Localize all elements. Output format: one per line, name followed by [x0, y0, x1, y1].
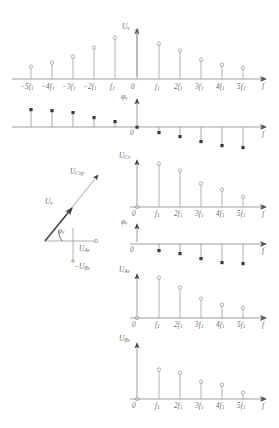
- chart-uv-ylabel-sub: v: [127, 25, 129, 31]
- chart-phiv-xlabel: f: [262, 130, 264, 138]
- chart-ucv-ylabel-sub: Cv: [124, 154, 130, 160]
- phasor-x-component-sub: Av: [84, 247, 89, 253]
- chart-phiv1-xlabel: f: [262, 247, 264, 255]
- chart-ubv: [130, 343, 266, 401]
- phasor-y-component-label: −UBv: [74, 263, 90, 272]
- tick-c6-f1: f1: [155, 403, 160, 410]
- phasor-diagram: [45, 175, 98, 262]
- tick-zero-c5: 0: [132, 322, 136, 329]
- tick-c3-3f1: 3f1: [195, 211, 204, 218]
- tick-c3-2f1: 2f1: [174, 211, 183, 218]
- tick-neg-4f1: −4f1: [41, 84, 55, 91]
- tick-2f1: 2f1: [174, 84, 183, 91]
- tick-zero-c4: 0: [130, 247, 134, 254]
- phasor-uv-sub: v: [50, 200, 52, 206]
- tick-c3-f1: f1: [155, 211, 160, 218]
- phasor-resultant-sub: Cvp: [75, 170, 84, 176]
- tick-neg-f1: f1: [110, 84, 115, 91]
- chart-phiv1-ylabel: φv: [121, 218, 127, 227]
- tick-f1: f1: [155, 84, 160, 91]
- tick-neg-2f1: −2f1: [83, 84, 97, 91]
- tick-c6-2f1: 2f1: [174, 403, 183, 410]
- uv-phasor: [45, 208, 72, 241]
- chart-uv-ylabel: Uv: [122, 23, 130, 32]
- tick-neg-3f1: −3f1: [62, 84, 76, 91]
- tick-c6-5f1: 5f1: [237, 403, 246, 410]
- tick-zero-c3: 0: [132, 211, 136, 218]
- stem-group: [135, 162, 244, 209]
- tick-c5-5f1: 5f1: [237, 322, 246, 329]
- tick-c5-4f1: 4f1: [216, 322, 225, 329]
- tick-c5-f1: f1: [155, 322, 160, 329]
- tick-zero-c2: 0: [130, 130, 134, 137]
- tick-5f1: 5f1: [237, 84, 246, 91]
- tick-c6-4f1: 4f1: [216, 403, 225, 410]
- chart-uav-ylabel-sub: Av: [124, 268, 129, 274]
- chart-phiv-ylabel: φv: [121, 93, 127, 102]
- tick-3f1: 3f1: [195, 84, 204, 91]
- stem-group: [157, 244, 244, 265]
- chart-ucv-ylabel: UCv: [119, 152, 130, 161]
- stem-group: [135, 276, 244, 320]
- phasor-resultant-label: UCvp: [70, 168, 84, 177]
- tick-c3-5f1: 5f1: [237, 211, 246, 218]
- chart-uav-xlabel: f: [262, 321, 264, 329]
- tick-4f1: 4f1: [216, 84, 225, 91]
- stem-group: [135, 368, 244, 401]
- chart-ucv-xlabel: f: [262, 210, 264, 218]
- phasor-uv-label: Uv: [45, 198, 53, 207]
- tick-c3-4f1: 4f1: [216, 211, 225, 218]
- tick-c5-3f1: 3f1: [195, 322, 204, 329]
- chart-ubv-xlabel: f: [262, 402, 264, 410]
- tick-c6-3f1: 3f1: [195, 403, 204, 410]
- chart-ubv-ylabel: UBv: [119, 335, 130, 344]
- chart-phiv-two-sided: [12, 99, 266, 149]
- chart-phiv-ylabel-sub: v: [125, 95, 127, 101]
- chart-phiv-one-sided: [130, 224, 266, 265]
- spectral-diagram-figure: Uv f −5f1 −4f1 −3f1 −2f1 f1 0 f1 2f1 3f1…: [0, 0, 279, 428]
- chart-ubv-ylabel-sub: Bv: [124, 337, 130, 343]
- phasor-angle-label: φv: [58, 227, 64, 236]
- phasor-y-component-sub: Bv: [84, 265, 90, 271]
- stem-group: [29, 29, 244, 79]
- tick-neg-5f1: −5f1: [20, 84, 34, 91]
- chart-ucv: [130, 160, 266, 209]
- chart-phiv1-ylabel-sub: v: [125, 220, 127, 226]
- chart-uv-xlabel: f: [262, 82, 264, 90]
- tick-c5-2f1: 2f1: [174, 322, 183, 329]
- chart-uav: [130, 274, 266, 320]
- tick-zero-c6: 0: [132, 403, 136, 410]
- phasor-x-component-label: UAv: [79, 245, 90, 254]
- phasor-angle-sub: v: [62, 229, 64, 235]
- chart-uav-ylabel: UAv: [119, 266, 130, 275]
- chart-uv-two-sided: [12, 29, 266, 79]
- tick-zero-c1: 0: [131, 84, 135, 91]
